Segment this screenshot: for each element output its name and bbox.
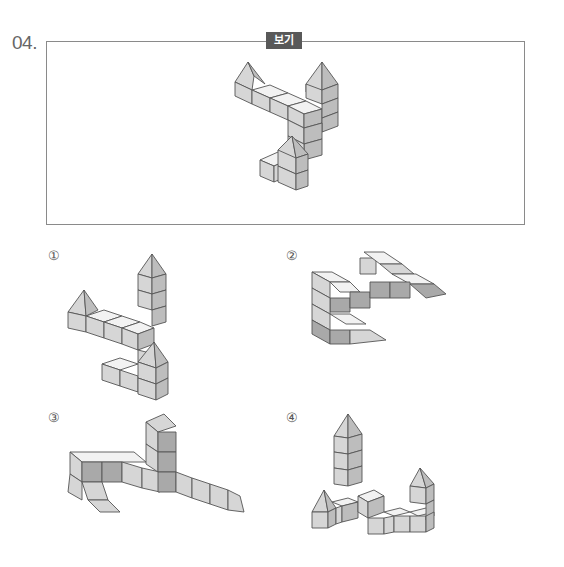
option-1-label[interactable]: ① [48,248,60,263]
option-2-label[interactable]: ② [286,248,298,263]
option-2-figure[interactable] [310,252,450,352]
question-number: 04. [12,32,37,54]
option-3-figure[interactable] [68,412,248,522]
option-3-label[interactable]: ③ [48,410,60,425]
option-4-figure[interactable] [308,412,448,532]
reference-block-figure [230,62,340,212]
option-4-label[interactable]: ④ [286,410,298,425]
option-1-figure[interactable] [66,252,176,402]
reference-label: 보기 [266,32,302,49]
